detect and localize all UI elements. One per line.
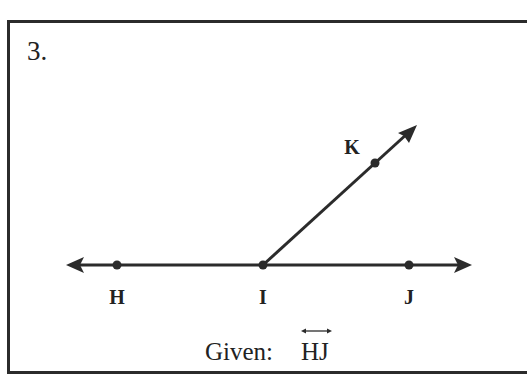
- notation-right-arrow-icon: [327, 329, 332, 334]
- ray-ik: [263, 133, 408, 265]
- point-j: [405, 261, 414, 270]
- notation-left-arrow-icon: [301, 329, 306, 334]
- label-k: K: [344, 136, 360, 158]
- point-h: [113, 261, 122, 270]
- given-prefix: Given:: [205, 338, 273, 365]
- point-k: [371, 159, 380, 168]
- given-object: HJ: [301, 338, 329, 365]
- label-j: J: [404, 286, 414, 308]
- label-h: H: [109, 286, 125, 308]
- label-i: I: [259, 286, 267, 308]
- point-i: [259, 261, 268, 270]
